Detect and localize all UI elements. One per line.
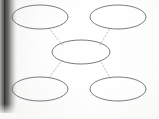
node-group xyxy=(12,5,146,101)
node-top-left[interactable] xyxy=(12,5,68,29)
connector-center-to-bottom-right xyxy=(100,60,110,78)
connector-center-to-top-left xyxy=(49,28,62,45)
node-center-outline[interactable] xyxy=(52,40,110,64)
node-bottom-right[interactable] xyxy=(90,77,146,101)
connector-center-to-top-right xyxy=(100,28,110,45)
connector-center-to-bottom-left xyxy=(49,60,62,78)
node-top-right[interactable] xyxy=(90,5,146,29)
node-bottom-left[interactable] xyxy=(12,77,68,101)
node-center[interactable] xyxy=(52,40,110,64)
scanned-worksheet-page xyxy=(0,0,159,119)
node-top-right-outline[interactable] xyxy=(90,5,146,29)
connector-group xyxy=(49,28,110,78)
node-bottom-right-outline[interactable] xyxy=(90,77,146,101)
node-bottom-left-outline[interactable] xyxy=(12,77,68,101)
node-top-left-outline[interactable] xyxy=(12,5,68,29)
concept-map-diagram xyxy=(0,0,159,119)
